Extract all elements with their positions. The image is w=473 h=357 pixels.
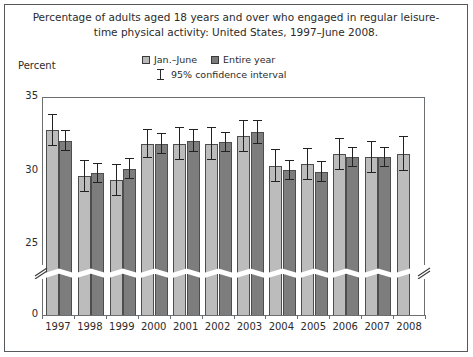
- legend-row-series: Jan.–June Entire year: [128, 52, 348, 67]
- x-tick-mark: [297, 315, 298, 319]
- bar: [46, 130, 59, 315]
- error-bar: [143, 129, 152, 158]
- bar-group: [75, 98, 107, 315]
- error-bar: [253, 120, 262, 144]
- bar: [219, 142, 232, 315]
- legend-label-entire-year: Entire year: [223, 54, 275, 65]
- error-bar: [239, 120, 248, 152]
- chart-figure: Percentage of adults aged 18 years and o…: [0, 0, 473, 357]
- y-axis-line: [42, 97, 43, 315]
- bar: [155, 144, 168, 315]
- bar: [187, 141, 200, 315]
- error-bar: [61, 130, 70, 151]
- x-tick-mark: [42, 315, 43, 319]
- error-bar: [335, 138, 344, 170]
- bar: [301, 164, 314, 315]
- bar: [110, 180, 123, 315]
- bar: [59, 141, 72, 315]
- bar: [378, 157, 391, 315]
- chart-title: Percentage of adults aged 18 years and o…: [26, 10, 446, 40]
- error-bar: [367, 141, 376, 173]
- error-bar: [271, 149, 280, 181]
- error-bar: [380, 147, 389, 168]
- error-bar: [93, 163, 102, 184]
- bar-group: [330, 98, 362, 315]
- error-bar: [48, 114, 57, 146]
- error-bar: [112, 164, 121, 196]
- error-bar: [207, 127, 216, 159]
- bar-group: [43, 98, 75, 315]
- x-tick-mark: [329, 315, 330, 319]
- legend-swatch-jan-june-icon: [142, 56, 150, 64]
- x-tick-mark: [202, 315, 203, 319]
- bar-group: [298, 98, 330, 315]
- bar-group: [266, 98, 298, 315]
- x-tick-label: 2008: [389, 321, 429, 332]
- bar: [333, 154, 346, 315]
- bar-group: [362, 98, 394, 315]
- bar-group: [235, 98, 267, 315]
- y-tick-label: 35: [10, 90, 38, 101]
- y-tick-label: 0: [10, 308, 38, 319]
- bar: [78, 176, 91, 315]
- error-bar: [317, 161, 326, 182]
- error-bar: [125, 158, 134, 179]
- error-bar: [348, 147, 357, 168]
- error-bar: [175, 127, 184, 159]
- x-tick-mark: [106, 315, 107, 319]
- error-bar: [157, 133, 166, 154]
- bar: [123, 169, 136, 315]
- bar: [173, 144, 186, 315]
- x-tick-mark: [138, 315, 139, 319]
- y-tick-label: 30: [10, 164, 38, 175]
- x-tick-mark: [234, 315, 235, 319]
- bar-group: [107, 98, 139, 315]
- x-tick-mark: [170, 315, 171, 319]
- bar: [346, 157, 359, 315]
- x-tick-mark: [393, 315, 394, 319]
- x-tick-mark: [74, 315, 75, 319]
- bar-group: [203, 98, 235, 315]
- x-tick-mark: [425, 315, 426, 319]
- error-bar: [80, 160, 89, 192]
- bar: [365, 157, 378, 315]
- bar: [397, 154, 410, 315]
- legend-swatch-entire-year-icon: [211, 56, 219, 64]
- y-tick-label: 25: [10, 237, 38, 248]
- legend-row-ci: 95% confidence interval: [128, 67, 348, 82]
- bar: [251, 132, 264, 315]
- bar: [315, 172, 328, 316]
- error-bar-icon: [156, 69, 165, 80]
- bar-group: [139, 98, 171, 315]
- bar: [205, 144, 218, 315]
- y-axis-break-left-icon: [34, 265, 50, 279]
- bar: [283, 170, 296, 315]
- error-bar: [303, 148, 312, 180]
- x-tick-mark: [361, 315, 362, 319]
- legend-label-jan-june: Jan.–June: [154, 54, 197, 65]
- bar: [91, 173, 104, 315]
- error-bar: [189, 129, 198, 153]
- bar: [269, 166, 282, 315]
- bar-group: [171, 98, 203, 315]
- x-tick-mark: [265, 315, 266, 319]
- bars-container: [43, 98, 424, 315]
- y-axis-break-right-icon: [417, 265, 433, 279]
- error-bar: [221, 132, 230, 153]
- plot-area: [42, 97, 425, 315]
- bar-group: [394, 98, 425, 315]
- bar: [141, 144, 154, 315]
- legend-label-ci: 95% confidence interval: [171, 69, 286, 80]
- error-bar: [399, 136, 408, 171]
- error-bar: [285, 160, 294, 181]
- bar: [237, 136, 250, 315]
- chart-legend: Jan.–June Entire year 95% confidence int…: [128, 52, 348, 82]
- y-axis-ticks: 3530250: [6, 0, 38, 357]
